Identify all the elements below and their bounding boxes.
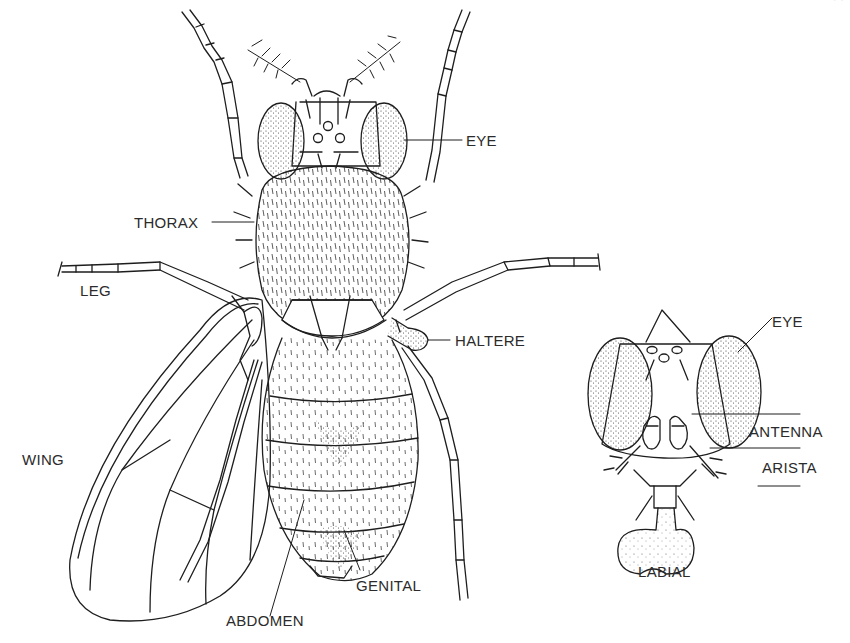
label-eye-dorsal: EYE <box>466 133 497 148</box>
label-eye-head: EYE <box>772 314 803 329</box>
label-antenna: ANTENNA <box>749 424 823 439</box>
rear-leg-left <box>180 360 262 582</box>
label-abdomen: ABDOMEN <box>226 613 304 628</box>
fly-wing <box>70 296 271 621</box>
antenna-aristae <box>248 36 400 82</box>
fly-anatomy-diagram: · · <box>0 0 850 643</box>
front-leg-left <box>182 10 248 178</box>
label-arista: ARISTA <box>762 460 817 475</box>
label-genital: GENITAL <box>356 578 421 593</box>
label-haltere: HALTERE <box>455 333 525 348</box>
label-wing: WING <box>22 452 64 467</box>
head-frontal-view <box>588 310 761 574</box>
label-leg: LEG <box>80 283 111 298</box>
label-thorax: THORAX <box>134 215 198 230</box>
middle-leg-right <box>404 254 600 320</box>
fly-head <box>258 79 407 179</box>
front-leg-right <box>426 10 470 182</box>
page-number: · · <box>833 0 844 6</box>
label-labial: LABIAL <box>638 564 691 579</box>
fly-abdomen <box>262 338 418 581</box>
diagram-drawing <box>0 0 850 643</box>
